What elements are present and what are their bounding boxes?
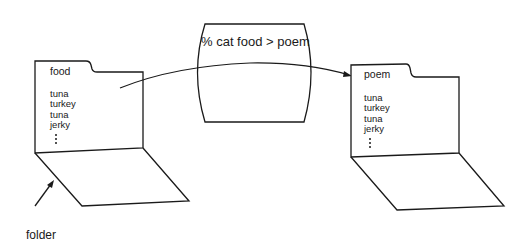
source-folder-more-icon	[55, 134, 58, 146]
folder-annotation-label: folder	[26, 228, 56, 242]
target-folder-name: poem	[364, 69, 390, 80]
target-folder-more-icon	[369, 138, 372, 150]
source-folder-item: jerky	[50, 120, 76, 130]
target-folder-item: jerky	[364, 124, 390, 134]
target-folder-flap	[351, 153, 504, 210]
annotation-arrow-head-icon	[47, 180, 54, 188]
command-text: % cat food > poem	[201, 34, 310, 49]
target-folder-list: tuna turkey tuna jerky	[364, 93, 390, 135]
source-folder-flap	[35, 148, 189, 206]
source-folder-list: tuna turkey tuna jerky	[50, 89, 76, 131]
source-folder-name: food	[50, 66, 70, 77]
annotation-arrow-line	[35, 184, 51, 206]
